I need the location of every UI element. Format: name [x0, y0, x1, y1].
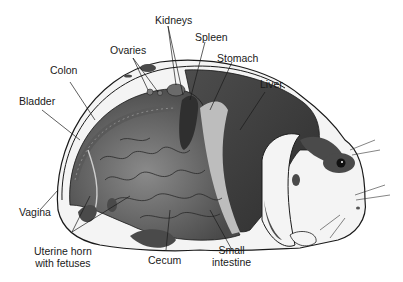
label-bladder: Bladder — [19, 95, 55, 107]
label-stomach: Stomach — [217, 52, 258, 64]
label-liver: Liver — [260, 78, 283, 90]
label-vagina: Vagina — [19, 206, 51, 218]
kidney-organ — [167, 84, 185, 96]
rabbit-eye — [337, 159, 346, 168]
label-cecum: Cecum — [148, 254, 181, 266]
label-colon: Colon — [50, 64, 77, 76]
label-kidneys: Kidneys — [155, 14, 192, 26]
label-ovaries: Ovaries — [110, 44, 146, 56]
label-small-intestine: Small intestine — [212, 244, 251, 268]
label-uterine-horn: Uterine horn with fetuses — [34, 245, 92, 269]
label-spleen: Spleen — [195, 31, 228, 43]
